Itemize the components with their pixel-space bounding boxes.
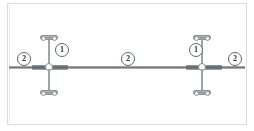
clevis-fitting-bottom-left: [40, 90, 58, 95]
cable-segment-middle: [49, 66, 207, 69]
fitting-eye-icon: [194, 91, 199, 96]
callout-label: 2: [126, 55, 130, 63]
fitting-eye-icon: [52, 91, 57, 96]
callout-balloon-cable-left[interactable]: 2: [17, 52, 31, 66]
fitting-eye-icon: [194, 36, 199, 41]
fitting-eye-icon: [205, 36, 210, 41]
callout-label: 1: [60, 46, 64, 54]
fitting-eye-icon: [41, 91, 46, 96]
rod-shaft-lower-right: [201, 69, 203, 91]
callout-label: 1: [194, 46, 198, 54]
fitting-eye-icon: [41, 36, 46, 41]
drawing-canvas: 2 1 2 1 2: [0, 0, 254, 131]
callout-balloon-cable-right[interactable]: 2: [228, 52, 242, 66]
fitting-eye-icon: [205, 91, 210, 96]
callout-balloon-cable-middle[interactable]: 2: [121, 52, 135, 66]
callout-balloon-rod-left[interactable]: 1: [55, 43, 69, 57]
rod-shaft-lower-left: [48, 69, 50, 91]
callout-balloon-rod-right[interactable]: 1: [189, 43, 203, 57]
callout-label: 2: [233, 55, 237, 63]
clevis-fitting-bottom-right: [193, 90, 211, 95]
fitting-eye-icon: [52, 36, 57, 41]
callout-label: 2: [22, 55, 26, 63]
